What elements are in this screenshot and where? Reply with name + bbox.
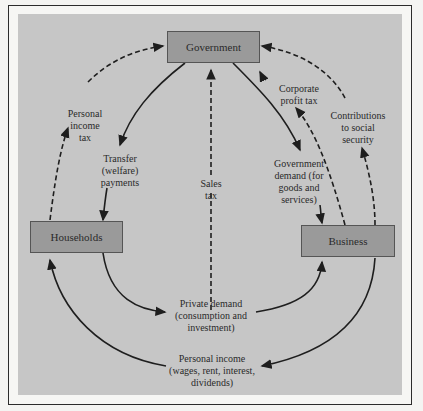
label-sales-tax: Sales tax (190, 178, 232, 202)
label-contributions-social-security: Contributions to social security (318, 110, 398, 146)
personal-income-arrow (262, 258, 375, 366)
households-box: Households (30, 221, 123, 253)
business-box: Business (301, 225, 395, 257)
transfer-payments-arrow (120, 63, 185, 145)
label-government-demand: Government demand (for goods and service… (264, 158, 334, 206)
government-box: Government (167, 31, 260, 63)
private-demand-arrow (103, 253, 165, 312)
label-transfer-payments: Transfer (welfare) payments (90, 153, 150, 189)
label-personal-income: Personal income (wages, rent, interest, … (160, 353, 264, 389)
label-corporate-profit-tax: Corporate profit tax (264, 83, 334, 107)
label-private-demand: Private demand (consumption and investme… (165, 298, 257, 334)
label-personal-income-tax: Personal income tax (55, 108, 115, 144)
social-security-arrow (362, 148, 375, 225)
